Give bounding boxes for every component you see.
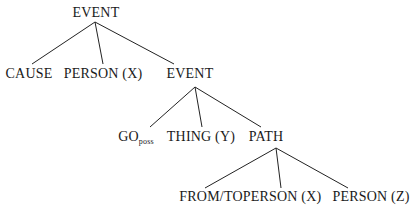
node-go-poss: GOposs bbox=[118, 130, 154, 149]
node-person-z: PERSON (Z) bbox=[332, 190, 409, 204]
edge-event-person-x bbox=[95, 22, 103, 64]
node-path: PATH bbox=[249, 130, 284, 144]
edge-path-fromto bbox=[205, 148, 276, 188]
node-cause: CAUSE bbox=[6, 67, 53, 81]
node-person-x-2: PERSON (X) bbox=[243, 190, 322, 204]
edge-event-go bbox=[150, 87, 195, 127]
edge-event-path bbox=[195, 87, 261, 127]
edge-event-thing bbox=[195, 87, 202, 127]
go-label: GO bbox=[118, 129, 139, 144]
edge-path-person-x bbox=[276, 148, 281, 188]
edge-path-person-z bbox=[276, 148, 348, 188]
node-sub-event: EVENT bbox=[167, 67, 214, 81]
tree-edges bbox=[0, 0, 413, 212]
edge-event-cause bbox=[32, 22, 95, 64]
edge-event-event bbox=[95, 22, 174, 64]
node-root-event: EVENT bbox=[73, 6, 120, 20]
node-from-to: FROM/TO bbox=[179, 190, 242, 204]
node-thing-y: THING (Y) bbox=[167, 130, 235, 144]
poss-subscript: poss bbox=[139, 137, 154, 146]
node-person-x: PERSON (X) bbox=[64, 67, 143, 81]
